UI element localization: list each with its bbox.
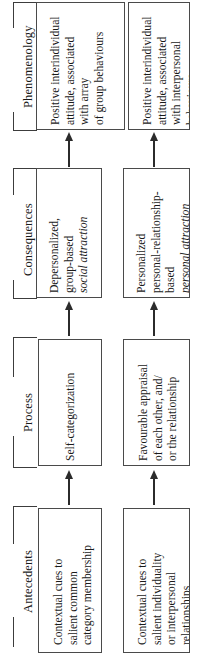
box-text: Contextual cues to salient individuality… bbox=[136, 553, 190, 645]
box-text: Depersonalized, group-based social attra… bbox=[48, 217, 92, 293]
bracket-spine-top bbox=[13, 168, 14, 195]
box-text: Personalized personal-relationship- base… bbox=[135, 191, 190, 293]
box-line-italic: social attraction bbox=[77, 217, 92, 293]
section-antecedents: Antecedents Contextual cues to salient c… bbox=[0, 505, 200, 647]
box-line: Positive interindividual bbox=[141, 16, 156, 125]
box-line: of each other, and/ bbox=[152, 364, 167, 461]
box-line: Personalized bbox=[135, 191, 150, 293]
arrow-process-to-consequences-interpersonal bbox=[153, 309, 155, 336]
box-line: group-based bbox=[63, 217, 78, 293]
arrow-consequences-to-phenomenology-interpersonal bbox=[153, 140, 155, 167]
box-inner: Contextual cues to salient individuality… bbox=[124, 509, 189, 652]
box-inner: Self-categorization bbox=[39, 340, 101, 465]
box-line: attitude, associated bbox=[156, 16, 171, 125]
box-inner: Positive interindividual attitude, assoc… bbox=[129, 3, 189, 129]
diagram-box-consequences-group: Depersonalized, group-based social attra… bbox=[36, 168, 102, 298]
bracket-spine-top bbox=[13, 2, 14, 28]
diagram-box-antecedents-interpersonal: Contextual cues to salient individuality… bbox=[123, 508, 190, 653]
box-line: Contextual cues to bbox=[136, 553, 151, 645]
section-label-text: Phenomenology bbox=[22, 25, 35, 108]
bracket-stub-top bbox=[13, 168, 37, 169]
box-text: Contextual cues to salient common catego… bbox=[52, 545, 96, 645]
bracket-stub-bottom bbox=[13, 467, 37, 468]
bracket-spine-bottom bbox=[13, 436, 14, 467]
diagram-box-phenomenology-group: Positive interindividual attitude, assoc… bbox=[36, 2, 125, 130]
bracket-stub-top bbox=[13, 337, 37, 338]
box-inner: Contextual cues to salient common catego… bbox=[39, 509, 101, 652]
bracket-spine-bottom bbox=[13, 617, 14, 647]
diagram-box-antecedents-group: Contextual cues to salient common catego… bbox=[38, 508, 102, 653]
bracket-spine-top bbox=[13, 506, 14, 544]
box-inner: Personalized personal-relationship- base… bbox=[124, 169, 189, 297]
bracket-stub-bottom bbox=[13, 130, 37, 131]
section-process: Process Self-categorization Favourable a… bbox=[0, 336, 200, 468]
bracket-stub-bottom bbox=[13, 298, 37, 299]
box-line: Depersonalized, bbox=[48, 217, 63, 293]
arrow-antecedents-to-process-interpersonal bbox=[153, 478, 155, 505]
section-label-text: Consequences bbox=[22, 203, 35, 276]
box-line: with array bbox=[78, 16, 93, 125]
box-line: attitude, associated bbox=[64, 16, 79, 125]
box-inner: Depersonalized, group-based social attra… bbox=[37, 169, 101, 297]
diagram-box-consequences-interpersonal: Personalized personal-relationship- base… bbox=[123, 168, 190, 298]
box-inner: Positive interindividual attitude, assoc… bbox=[37, 3, 124, 129]
box-line: Favourable appraisal bbox=[137, 364, 152, 461]
box-line: of group behaviours bbox=[93, 16, 108, 125]
box-line: based bbox=[164, 191, 179, 293]
section-label-text: Antecedents bbox=[22, 550, 35, 613]
diagram-box-process-interpersonal: Favourable appraisal of each other, and/… bbox=[123, 339, 190, 466]
arrow-consequences-to-phenomenology-group bbox=[68, 140, 70, 167]
section-consequences: Consequences Depersonalized, group-based… bbox=[0, 167, 200, 299]
section-label-text: Process bbox=[22, 393, 35, 432]
box-line: salient individuality bbox=[151, 553, 166, 645]
box-line: Positive interindividual bbox=[49, 16, 64, 125]
box-text: Positive interindividual attitude, assoc… bbox=[49, 16, 107, 125]
box-line: personal-relationship- bbox=[150, 191, 165, 293]
bracket-stub-top bbox=[13, 506, 37, 507]
box-line: Contextual cues to bbox=[52, 545, 67, 645]
box-text: Positive interindividual attitude, assoc… bbox=[141, 16, 190, 125]
box-line: or the relationship bbox=[166, 364, 181, 461]
box-text: Self-categorization bbox=[64, 373, 79, 461]
box-line: Self-categorization bbox=[64, 373, 79, 461]
bracket-spine-top bbox=[13, 337, 14, 377]
box-line: category membership bbox=[81, 545, 96, 645]
section-phenomenology: Phenomenology Positive interindividual a… bbox=[0, 0, 200, 131]
bracket-spine-bottom bbox=[13, 280, 14, 298]
box-line: salient common bbox=[67, 545, 82, 645]
diagram-box-process-group: Self-categorization bbox=[38, 339, 102, 466]
bracket-spine-bottom bbox=[13, 112, 14, 130]
box-text: Favourable appraisal of each other, and/… bbox=[137, 364, 181, 461]
arrow-antecedents-to-process-group bbox=[68, 478, 70, 505]
bracket-stub-top bbox=[13, 2, 37, 3]
box-line: or interpersonal bbox=[165, 553, 180, 645]
box-line: relationships bbox=[180, 553, 190, 645]
box-inner: Favourable appraisal of each other, and/… bbox=[124, 340, 189, 465]
box-line: behaviours bbox=[185, 16, 190, 125]
arrow-process-to-consequences-group bbox=[68, 309, 70, 336]
box-line-italic: personal attraction bbox=[179, 191, 190, 293]
diagram-box-phenomenology-interpersonal: Positive interindividual attitude, assoc… bbox=[128, 2, 190, 130]
box-line: with interpersonal bbox=[170, 16, 185, 125]
